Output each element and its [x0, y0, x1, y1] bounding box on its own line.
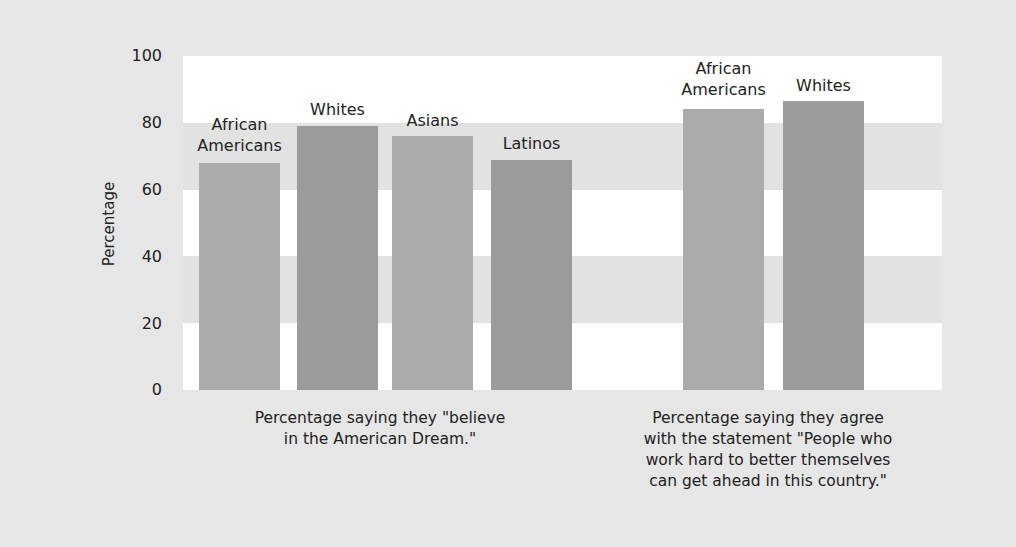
bar-american-dream-asians: [392, 136, 473, 390]
bar-label-line2: Americans: [189, 135, 290, 156]
bar-label-line1: Whites: [773, 75, 874, 96]
y-tick-100: 100: [122, 46, 162, 65]
bar-label-asians: Asians: [382, 110, 483, 131]
bar-label-african-americans-2: African Americans: [673, 58, 774, 100]
y-tick-60: 60: [122, 180, 162, 199]
caption-american-dream: Percentage saying they "believe in the A…: [230, 408, 530, 450]
bar-label-line1: African: [189, 114, 290, 135]
y-tick-20: 20: [122, 314, 162, 333]
bar-label-line1: Whites: [287, 99, 388, 120]
caption-work-hard: Percentage saying they agree with the st…: [618, 408, 918, 492]
bar-work-hard-african-americans: [683, 109, 764, 390]
bar-label-line1: Latinos: [481, 133, 582, 154]
caption-line: can get ahead in this country.": [618, 471, 918, 492]
caption-line: with the statement "People who: [618, 429, 918, 450]
bar-label-line2: Americans: [673, 79, 774, 100]
bar-american-dream-african-americans: [199, 163, 280, 390]
bar-label-whites-2: Whites: [773, 75, 874, 96]
bar-american-dream-latinos: [491, 160, 572, 390]
bar-work-hard-whites: [783, 101, 864, 390]
bar-american-dream-whites: [297, 126, 378, 390]
y-tick-40: 40: [122, 247, 162, 266]
bar-label-line1: Asians: [382, 110, 483, 131]
y-tick-80: 80: [122, 113, 162, 132]
y-axis-label: Percentage: [100, 179, 118, 269]
caption-line: in the American Dream.": [230, 429, 530, 450]
y-tick-0: 0: [122, 380, 162, 399]
bar-label-african-americans-1: African Americans: [189, 114, 290, 156]
bar-label-latinos: Latinos: [481, 133, 582, 154]
bar-label-line1: African: [673, 58, 774, 79]
bar-label-whites-1: Whites: [287, 99, 388, 120]
caption-line: Percentage saying they "believe: [230, 408, 530, 429]
caption-line: Percentage saying they agree: [618, 408, 918, 429]
caption-line: work hard to better themselves: [618, 450, 918, 471]
